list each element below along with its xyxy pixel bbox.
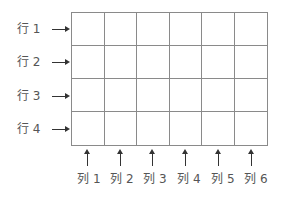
grid-cell [235,13,268,46]
grid-cell [137,46,170,79]
up-arrow-icon [152,151,153,166]
grid-cell [170,13,203,46]
grid-cell [170,46,203,79]
grid-table [71,12,268,146]
grid-cell [72,79,105,112]
grid-cell [202,46,235,79]
grid-cell [235,79,268,112]
grid-cell [170,112,203,145]
grid-cell [202,13,235,46]
column-label-6: 列 6 [241,172,271,186]
grid-cell [170,79,203,112]
right-arrow-icon [52,62,68,63]
grid-cell [235,112,268,145]
right-arrow-icon [52,29,68,30]
right-arrow-icon [52,129,68,130]
grid-cell [105,112,138,145]
grid-cell [137,112,170,145]
grid-cell [72,46,105,79]
up-arrow-icon [87,151,88,166]
column-label-3: 列 3 [140,172,170,186]
right-arrow-icon [52,96,68,97]
row-label-4: 行 4 [17,122,40,136]
column-label-4: 列 4 [174,172,204,186]
row-label-2: 行 2 [17,55,40,69]
grid-cell [105,46,138,79]
up-arrow-icon [185,151,186,166]
grid-cell [137,79,170,112]
column-label-1: 列 1 [74,172,104,186]
grid-cell [235,46,268,79]
grid-cell [72,13,105,46]
grid-cell [105,79,138,112]
grid-cell [202,112,235,145]
grid-cell [72,112,105,145]
column-label-2: 列 2 [107,172,137,186]
grid-cell [105,13,138,46]
grid-cell [137,13,170,46]
up-arrow-icon [218,151,219,166]
row-label-1: 行 1 [17,22,40,36]
up-arrow-icon [120,151,121,166]
row-label-3: 行 3 [17,89,40,103]
grid-cell [202,79,235,112]
column-label-5: 列 5 [208,172,238,186]
up-arrow-icon [251,151,252,166]
